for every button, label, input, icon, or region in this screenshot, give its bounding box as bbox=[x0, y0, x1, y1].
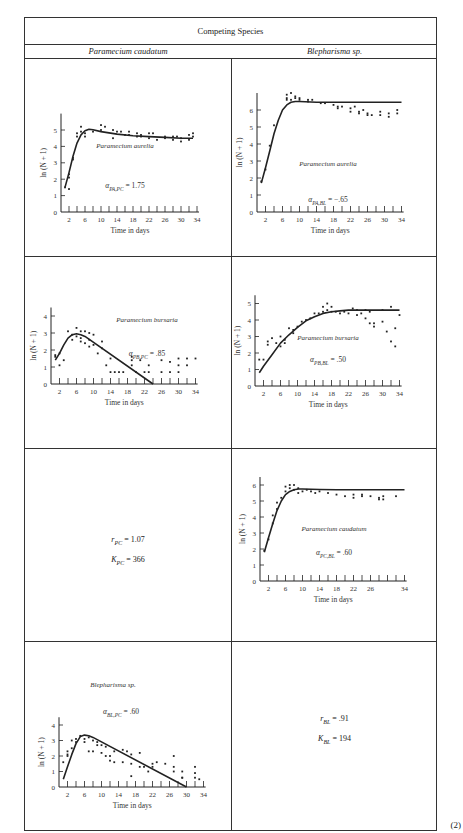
x-tick-label: 26 bbox=[166, 791, 174, 799]
fitted-curve bbox=[261, 102, 401, 184]
y-tick-label: 0 bbox=[253, 578, 257, 586]
x-tick-label: 6 bbox=[75, 388, 79, 396]
chart-species-title: Paramecium aurelia bbox=[95, 142, 154, 150]
y-tick-label: 0 bbox=[250, 209, 254, 217]
y-tick-label: 2 bbox=[250, 175, 254, 183]
params-cell-bl: rBL = .91 KBL = 194 bbox=[232, 642, 437, 831]
x-tick-label: 2 bbox=[58, 388, 62, 396]
x-tick-label: 14 bbox=[107, 388, 115, 396]
fitted-curve bbox=[264, 489, 404, 552]
y-tick-label: 2 bbox=[52, 753, 56, 761]
x-tick-label: 2 bbox=[66, 791, 70, 799]
y-tick-label: 3 bbox=[52, 737, 56, 745]
x-tick-label: 26 bbox=[362, 390, 370, 398]
x-tick-label: 30 bbox=[178, 216, 186, 224]
x-tick-label: 34 bbox=[200, 791, 208, 799]
chart-pa-pc: 0123452610141822263034Time in daysln (N … bbox=[25, 36, 221, 241]
x-axis-label: Time in days bbox=[314, 595, 353, 604]
y-tick-label: 1 bbox=[54, 192, 58, 200]
y-tick-label: 1 bbox=[44, 364, 48, 372]
y-tick-label: 0 bbox=[54, 209, 58, 217]
y-axis-label: ln (N + 1) bbox=[233, 325, 242, 355]
fitted-curve bbox=[63, 735, 186, 787]
params-cell-pc: rPC = 1.07 KPC = 366 bbox=[25, 449, 231, 641]
alpha-annotation: αPA,PC = 1.75 bbox=[105, 181, 145, 192]
y-tick-label: 6 bbox=[250, 107, 254, 115]
x-tick-label: 18 bbox=[330, 216, 338, 224]
competing-species-table: Competing Species Paramecium caudatum Bl… bbox=[24, 17, 437, 831]
y-tick-label: 3 bbox=[248, 333, 252, 341]
r-pc-value: rPC = 1.07 bbox=[25, 535, 231, 546]
k-bl-value: KBL = 194 bbox=[232, 734, 437, 745]
x-tick-label: 26 bbox=[162, 216, 170, 224]
y-tick-label: 5 bbox=[250, 124, 254, 132]
alpha-annotation: αBL,PC = .60 bbox=[103, 707, 139, 718]
x-tick-label: 22 bbox=[141, 388, 149, 396]
x-tick-label: 2 bbox=[67, 216, 71, 224]
x-tick-label: 10 bbox=[299, 585, 307, 593]
chart-species-title: Paramecium bursaria bbox=[296, 334, 359, 342]
x-tick-label: 22 bbox=[149, 791, 157, 799]
y-axis-label: ln (N + 1) bbox=[39, 147, 48, 177]
x-tick-label: 30 bbox=[381, 216, 389, 224]
y-tick-label: 0 bbox=[52, 784, 56, 792]
y-tick-label: 4 bbox=[44, 313, 48, 321]
x-tick-label: 14 bbox=[114, 216, 122, 224]
x-tick-label: 18 bbox=[328, 390, 336, 398]
x-tick-label: 6 bbox=[83, 216, 87, 224]
x-axis-label: Time in days bbox=[111, 226, 150, 235]
k-pc-value: KPC = 366 bbox=[25, 555, 231, 566]
alpha-annotation: αPB,PC = .85 bbox=[129, 349, 166, 360]
x-tick-label: 2 bbox=[262, 390, 266, 398]
alpha-annotation: αPA,BL = −.65 bbox=[308, 195, 348, 206]
alpha-annotation: αPB,BL = .50 bbox=[310, 355, 346, 366]
alpha-annotation: αPC,BL = .60 bbox=[316, 548, 352, 559]
axes: 012345626101418222634 bbox=[253, 477, 409, 593]
x-tick-label: 30 bbox=[183, 791, 191, 799]
chart-pc-bl: 012345626101418222634Time in daysln (N +… bbox=[228, 450, 424, 640]
x-tick-label: 6 bbox=[284, 585, 288, 593]
y-tick-label: 2 bbox=[44, 347, 48, 355]
y-tick-label: 4 bbox=[248, 317, 252, 325]
y-tick-label: 3 bbox=[253, 530, 257, 538]
chart-pb-pc: 012342610141822263034Time in daysln (N +… bbox=[25, 258, 221, 448]
y-tick-label: 0 bbox=[248, 383, 252, 391]
x-tick-label: 14 bbox=[316, 585, 324, 593]
x-tick-label: 10 bbox=[98, 791, 106, 799]
y-axis-label: ln (N + 1) bbox=[37, 737, 46, 767]
x-tick-label: 10 bbox=[90, 388, 98, 396]
y-tick-label: 4 bbox=[250, 141, 254, 149]
x-tick-label: 6 bbox=[279, 390, 283, 398]
x-tick-label: 34 bbox=[194, 216, 202, 224]
y-tick-label: 2 bbox=[248, 350, 252, 358]
data-points bbox=[260, 92, 398, 182]
y-tick-label: 5 bbox=[54, 127, 58, 135]
axes: 012342610141822263034 bbox=[52, 717, 208, 799]
x-tick-label: 26 bbox=[158, 388, 166, 396]
row-divider bbox=[25, 256, 436, 257]
chart-species-title: Paramecium caudatum bbox=[300, 525, 366, 533]
data-points bbox=[263, 484, 397, 551]
chart-pa-bl: 01234562610141822263034Time in daysln (N… bbox=[228, 36, 424, 241]
y-tick-label: 3 bbox=[44, 330, 48, 338]
y-tick-label: 2 bbox=[54, 176, 58, 184]
chart-bl-pc: 012342610141822263034Time in daysln (N +… bbox=[25, 642, 221, 832]
r-bl-value: rBL = .91 bbox=[232, 714, 437, 725]
x-tick-label: 30 bbox=[175, 388, 183, 396]
x-tick-label: 2 bbox=[267, 585, 271, 593]
y-tick-label: 1 bbox=[250, 192, 254, 200]
y-tick-label: 1 bbox=[253, 562, 257, 570]
equation-number: (2) bbox=[451, 820, 462, 830]
y-tick-label: 5 bbox=[248, 300, 252, 308]
x-tick-label: 10 bbox=[294, 390, 302, 398]
x-tick-label: 30 bbox=[379, 390, 387, 398]
y-axis-label: ln (N + 1) bbox=[29, 330, 38, 360]
chart-species-title: Paramecium bursaria bbox=[115, 316, 178, 324]
x-tick-label: 2 bbox=[264, 216, 268, 224]
chart-species-title: Paramecium aurelia bbox=[298, 160, 357, 168]
x-tick-label: 18 bbox=[132, 791, 140, 799]
y-tick-label: 2 bbox=[253, 546, 257, 554]
y-tick-label: 4 bbox=[54, 143, 58, 151]
x-tick-label: 34 bbox=[396, 390, 404, 398]
y-tick-label: 4 bbox=[253, 514, 257, 522]
